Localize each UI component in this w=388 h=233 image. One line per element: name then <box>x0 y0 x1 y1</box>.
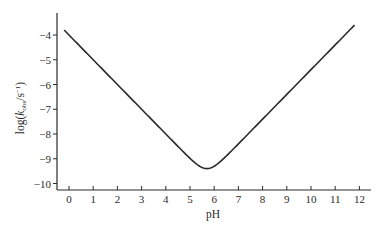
axes <box>57 13 371 190</box>
x-tick-label: 7 <box>236 193 242 205</box>
y-tick-label: −9 <box>39 153 51 165</box>
y-tick-label: −10 <box>34 178 52 190</box>
x-tick-label: 11 <box>330 193 341 205</box>
x-tick-label: 1 <box>90 193 96 205</box>
x-tick-label: 6 <box>211 193 217 205</box>
y-tick-label: −6 <box>39 79 51 91</box>
x-tick-label: 5 <box>187 193 193 205</box>
rate-curve <box>64 25 354 169</box>
x-tick-label: 0 <box>66 193 72 205</box>
y-tick-label: −7 <box>39 103 51 115</box>
y-tick-label: −4 <box>39 29 51 41</box>
x-tick-label: 9 <box>284 193 290 205</box>
x-axis-label: pH <box>206 208 220 221</box>
x-tick-label: 10 <box>306 193 318 205</box>
ph-rate-profile-chart: 0123456789101112 −4−5−6−7−8−9−10 pH log(… <box>0 0 388 233</box>
y-ticks: −4−5−6−7−8−9−10 <box>34 29 57 190</box>
x-tick-label: 8 <box>260 193 266 205</box>
y-tick-label: −5 <box>39 54 51 66</box>
x-tick-label: 4 <box>163 193 169 205</box>
x-tick-label: 3 <box>139 193 145 205</box>
x-tick-label: 2 <box>115 193 121 205</box>
y-axis-label: log(kobs/s−1) <box>14 82 28 135</box>
x-tick-label: 12 <box>354 193 365 205</box>
y-tick-label: −8 <box>39 128 51 140</box>
x-ticks: 0123456789101112 <box>66 186 365 205</box>
